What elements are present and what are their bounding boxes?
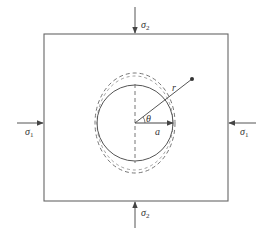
radius-point bbox=[190, 77, 194, 81]
r-label: r bbox=[172, 82, 176, 93]
sigma2-top-label: σ2 bbox=[141, 19, 150, 32]
a-label: a bbox=[155, 126, 160, 137]
stress-diagram: σ2 σ2 σ1 σ1 r θ a bbox=[0, 0, 269, 235]
sigma2-bottom-label: σ2 bbox=[141, 207, 150, 220]
theta-arc bbox=[143, 117, 145, 123]
sigma1-right-label: σ1 bbox=[240, 126, 249, 139]
plate-outline bbox=[44, 34, 228, 201]
theta-label: θ bbox=[146, 113, 151, 124]
sigma1-left-label: σ1 bbox=[25, 126, 34, 139]
